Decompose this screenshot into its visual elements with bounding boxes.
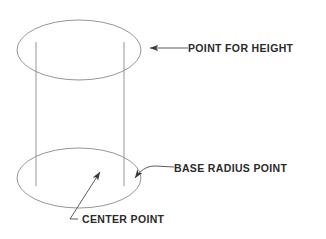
callout-center-point: CENTER POINT xyxy=(70,172,165,225)
cylinder-shape xyxy=(17,20,141,208)
label-base-radius-point: BASE RADIUS POINT xyxy=(174,162,288,174)
callout-point-for-height: POINT FOR HEIGHT xyxy=(150,42,294,54)
diagram-canvas: POINT FOR HEIGHT BASE RADIUS POINT CENTE… xyxy=(0,0,326,239)
callout-base-radius-point: BASE RADIUS POINT xyxy=(135,162,288,178)
cylinder-diagram: POINT FOR HEIGHT BASE RADIUS POINT CENTE… xyxy=(0,0,326,239)
leader-line-center-point xyxy=(70,172,100,219)
label-point-for-height: POINT FOR HEIGHT xyxy=(188,42,294,54)
label-center-point: CENTER POINT xyxy=(82,213,165,225)
